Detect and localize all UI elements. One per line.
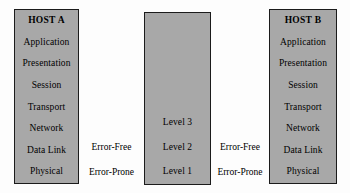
host-b-layer-data-link: Data Link bbox=[270, 140, 336, 162]
host-b-layer-session: Session bbox=[270, 75, 336, 97]
middle-level-3-label: Level 3 bbox=[145, 111, 210, 135]
middle-level-1-label: Level 1 bbox=[145, 160, 210, 184]
host-b-stack-box: HOST B Application Presentation Session … bbox=[269, 9, 337, 184]
host-a-layer-transport: Transport bbox=[15, 97, 78, 119]
right-error-free-label: Error-Free bbox=[211, 136, 269, 161]
host-a-stack-box: HOST A Application Presentation Session … bbox=[14, 9, 79, 184]
left-gap-annotations: Error-Free Error-Prone bbox=[79, 12, 144, 185]
host-b-layer-presentation: Presentation bbox=[270, 53, 336, 75]
host-a-title: HOST A bbox=[15, 10, 78, 32]
middle-stack-box: Level 3 Level 2 Level 1 bbox=[144, 12, 211, 185]
host-a-layer-data-link: Data Link bbox=[15, 140, 78, 162]
host-b-layer-application: Application bbox=[270, 32, 336, 54]
left-error-prone-label: Error-Prone bbox=[79, 160, 144, 185]
right-error-prone-label: Error-Prone bbox=[211, 160, 269, 185]
host-b-layer-transport: Transport bbox=[270, 97, 336, 119]
host-b-title: HOST B bbox=[270, 10, 336, 32]
host-a-layer-application: Application bbox=[15, 32, 78, 54]
middle-level-2-label: Level 2 bbox=[145, 135, 210, 159]
host-a-layer-session: Session bbox=[15, 75, 78, 97]
diagram-canvas: HOST A Application Presentation Session … bbox=[0, 0, 350, 193]
host-a-layer-network: Network bbox=[15, 118, 78, 140]
host-b-layer-physical: Physical bbox=[270, 161, 336, 183]
left-error-free-label: Error-Free bbox=[79, 136, 144, 161]
right-gap-annotations: Error-Free Error-Prone bbox=[211, 12, 269, 185]
host-a-layer-presentation: Presentation bbox=[15, 53, 78, 75]
host-a-layer-physical: Physical bbox=[15, 161, 78, 183]
host-b-layer-network: Network bbox=[270, 118, 336, 140]
